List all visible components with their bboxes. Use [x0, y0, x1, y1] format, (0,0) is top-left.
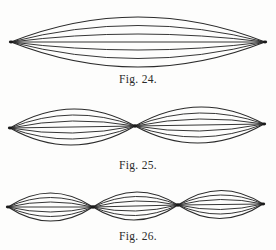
- node-point: [8, 127, 12, 130]
- string-envelope-line: [10, 109, 135, 128]
- figure-25-two-loops: [8, 107, 266, 145]
- vibrating-string-figures: [0, 0, 276, 250]
- node-point: [6, 206, 10, 209]
- node-point: [263, 41, 267, 44]
- string-envelope-line: [10, 126, 135, 145]
- book-page: Fig. 24. Fig. 25. Fig. 26.: [0, 0, 276, 250]
- node-point: [133, 125, 137, 128]
- string-envelope-line: [10, 126, 135, 128]
- string-envelope-line: [93, 205, 178, 220]
- node-point: [9, 41, 13, 44]
- figure-26-caption: Fig. 26.: [0, 229, 276, 243]
- figure-24-caption: Fig. 24.: [0, 72, 276, 86]
- node-point: [91, 206, 95, 209]
- figure-25-caption: Fig. 25.: [0, 158, 276, 172]
- string-envelope-line: [11, 42, 265, 50]
- string-envelope-line: [93, 192, 178, 207]
- string-envelope-line: [178, 190, 263, 205]
- string-envelope-line: [8, 202, 93, 207]
- string-envelope-line: [8, 207, 93, 212]
- string-envelope-line: [11, 34, 265, 42]
- figure-26-three-loops: [6, 190, 265, 221]
- string-envelope-line: [93, 205, 178, 207]
- string-envelope-line: [135, 124, 264, 143]
- node-point: [176, 204, 180, 207]
- node-point: [262, 123, 266, 126]
- string-envelope-line: [135, 124, 264, 126]
- figure-24-single-loop: [9, 17, 267, 67]
- node-point: [261, 203, 265, 206]
- string-envelope-line: [178, 204, 263, 219]
- string-envelope-line: [135, 107, 264, 126]
- string-envelope-line: [178, 204, 263, 205]
